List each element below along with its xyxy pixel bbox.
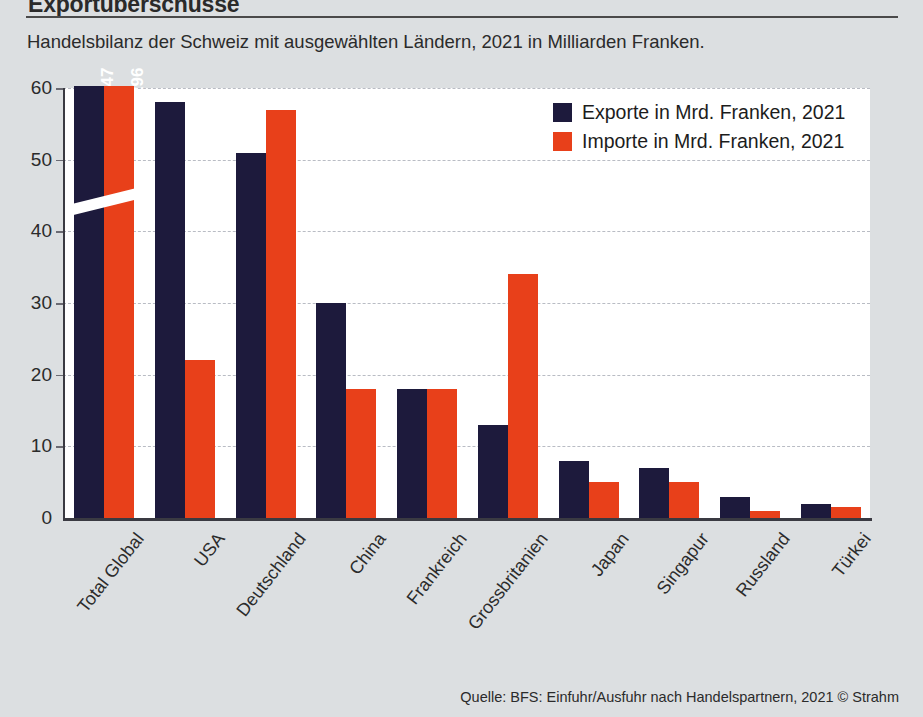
x-tick-label: Grossbritanien xyxy=(400,529,552,715)
legend-label: Importe in Mrd. Franken, 2021 xyxy=(582,130,844,153)
x-tick-label: Türkei xyxy=(723,529,875,715)
bar-exp-japan[interactable] xyxy=(559,461,589,518)
bar-group xyxy=(316,88,376,518)
bar-exp-singapur[interactable] xyxy=(639,468,669,518)
square-swatch-icon xyxy=(553,103,572,122)
x-tick-label: Total Global xyxy=(0,529,149,715)
y-tick-label: 0 xyxy=(4,507,52,529)
bar-exp-usa[interactable] xyxy=(155,102,185,518)
x-tick-label: Russland xyxy=(642,529,794,715)
legend-label: Exporte in Mrd. Franken, 2021 xyxy=(582,101,845,124)
legend-item-importe: Importe in Mrd. Franken, 2021 xyxy=(553,127,845,156)
y-tick-label: 10 xyxy=(4,435,52,457)
bar-exp-total-global[interactable] xyxy=(74,86,104,518)
y-tick-label: 40 xyxy=(4,220,52,242)
bar-exp-frankreich[interactable] xyxy=(397,389,427,518)
legend-item-exporte: Exporte in Mrd. Franken, 2021 xyxy=(553,98,845,127)
y-tick-label: 30 xyxy=(4,292,52,314)
x-axis-labels: Total GlobalUSADeutschlandChinaFrankreic… xyxy=(63,521,870,681)
x-tick-label: China xyxy=(239,529,391,715)
bar-imp-grossbritanien[interactable] xyxy=(508,274,538,518)
source-note: Quelle: BFS: Einfuhr/Ausfuhr nach Handel… xyxy=(460,689,899,705)
bar-group xyxy=(155,88,215,518)
bar-group: 347296 xyxy=(74,88,134,518)
title-divider xyxy=(26,16,898,18)
chart-legend: Exporte in Mrd. Franken, 2021 Importe in… xyxy=(549,96,851,160)
bar-imp-frankreich[interactable] xyxy=(427,389,457,518)
square-swatch-icon xyxy=(553,132,572,151)
bar-group xyxy=(397,88,457,518)
bar-exp-russland[interactable] xyxy=(720,497,750,519)
bar-group xyxy=(478,88,538,518)
bar-imp-deutschland[interactable] xyxy=(266,110,296,519)
x-tick-label: USA xyxy=(78,529,230,715)
bar-exp-deutschland[interactable] xyxy=(236,153,266,519)
bar-imp-russland[interactable] xyxy=(750,511,780,518)
x-tick-label: Japan xyxy=(481,529,633,715)
bar-exp-grossbritanien[interactable] xyxy=(478,425,508,518)
bar-group xyxy=(236,88,296,518)
bar-exp-china[interactable] xyxy=(316,303,346,518)
y-axis-labels: 0102030405060 xyxy=(0,88,52,520)
y-tick-label: 50 xyxy=(4,149,52,171)
chart-subtitle: Handelsbilanz der Schweiz mit ausgewählt… xyxy=(27,31,705,53)
x-tick-label: Deutschland xyxy=(158,529,310,715)
chart-page: Exportüberschüsse Handelsbilanz der Schw… xyxy=(0,0,923,717)
bar-imp-total-global[interactable] xyxy=(104,86,134,518)
y-axis-line xyxy=(63,88,65,520)
x-tick-label: Singapur xyxy=(562,529,714,715)
bar-imp-usa[interactable] xyxy=(185,360,215,518)
bar-imp-japan[interactable] xyxy=(589,482,619,518)
y-tick-label: 60 xyxy=(4,77,52,99)
bar-imp-singapur[interactable] xyxy=(669,482,699,518)
bar-imp-china[interactable] xyxy=(346,389,376,518)
y-tick-label: 20 xyxy=(4,364,52,386)
bar-exp-t-rkei[interactable] xyxy=(801,504,831,518)
bar-imp-t-rkei[interactable] xyxy=(831,507,861,518)
x-tick-label: Frankreich xyxy=(320,529,472,715)
